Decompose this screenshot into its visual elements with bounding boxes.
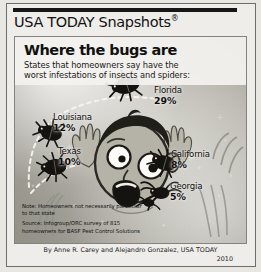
footnotes: Note: Homeowners not necessarily particu… [22,203,148,235]
source-text: Source: Infogroup/ORC survey of 815 home… [22,220,148,235]
byline-credit: By Anne R. Carey and Alejandro Gonzalez,… [44,246,218,254]
callout-state-label: Louisiana [53,113,92,122]
callout-state-label: Florida [154,86,182,95]
masthead-rule [13,8,237,12]
byline-year: 2010 [14,255,247,264]
callout-state-label: California [171,150,210,159]
data-callout-california: California 8% [171,150,210,169]
callout-value: 5% [170,192,202,201]
callout-state-label: Texas [58,147,81,156]
callout-value: 29% [154,96,182,105]
masthead: USA TODAY Snapshots® [13,8,249,36]
usa-today-snapshot-graphic: USA TODAY Snapshots® [0,0,261,272]
headline-block: Where the bugs are States that homeowner… [15,37,247,85]
data-callout-texas: Texas 10% [58,147,81,166]
callout-value: 10% [58,157,81,166]
callout-value: 12% [53,123,92,132]
data-callout-georgia: Georgia 5% [170,182,202,201]
registered-trademark-icon: ® [171,14,179,23]
data-callout-louisiana: Louisiana 12% [53,113,92,132]
note-text: Note: Homeowners not necessarily particu… [22,203,148,218]
subtitle-line-1: States that homeowners say have the [24,60,247,70]
masthead-title: USA TODAY Snapshots® [14,14,178,30]
masthead-brand-text: USA TODAY Snapshots [14,14,171,30]
subtitle-line-2: worst infestations of insects and spider… [24,70,247,80]
callout-value: 8% [171,160,210,169]
data-callout-florida: Florida 29% [154,86,182,105]
page-title: Where the bugs are [24,43,247,58]
callout-state-label: Georgia [170,182,202,191]
byline: By Anne R. Carey and Alejandro Gonzalez,… [14,246,247,263]
chart-panel: Where the bugs are States that homeowner… [14,36,247,244]
